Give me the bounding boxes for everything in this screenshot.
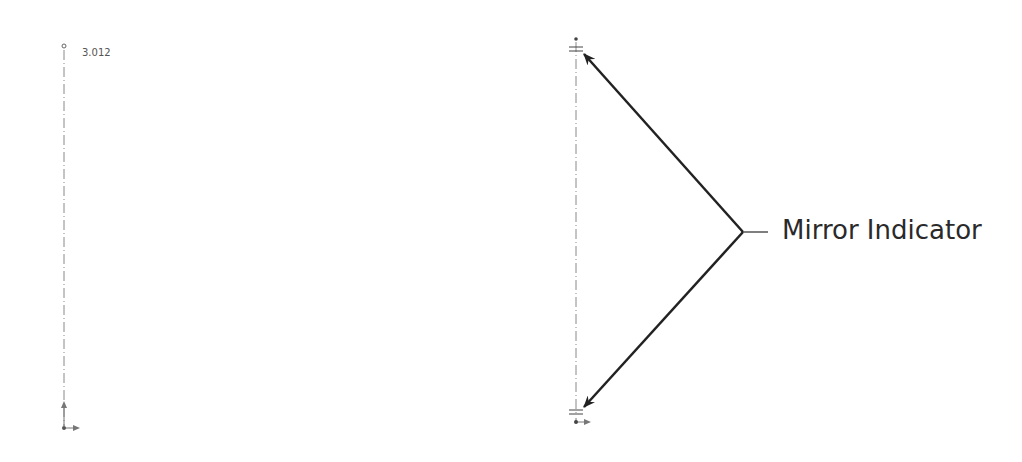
origin-icon-left <box>61 401 80 431</box>
endpoint-top <box>62 44 66 48</box>
dimension-label: 3.012 <box>82 47 111 58</box>
right-centerline <box>574 37 578 416</box>
callout-leader <box>584 54 768 407</box>
left-centerline <box>62 44 66 426</box>
origin-icon-right <box>574 418 591 425</box>
callout-label: Mirror Indicator <box>782 215 982 245</box>
